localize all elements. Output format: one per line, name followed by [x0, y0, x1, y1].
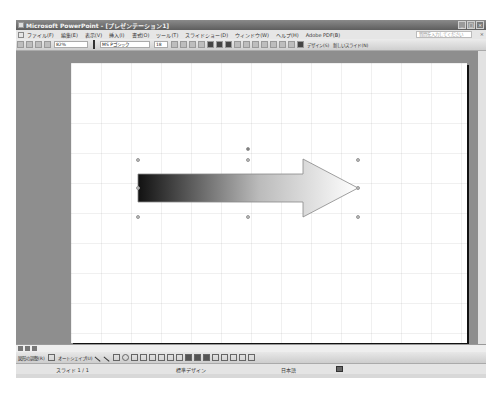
increase-font-icon[interactable]: [261, 41, 268, 48]
menu-help[interactable]: ヘルプ(H): [276, 31, 299, 38]
select-objects-icon[interactable]: [48, 354, 55, 361]
title-bar: Microsoft PowerPoint - [プレゼンテーション1] _ □ …: [16, 20, 486, 30]
close-button[interactable]: ×: [476, 21, 484, 29]
font-size-select[interactable]: 18: [154, 41, 168, 48]
powerpoint-window: Microsoft PowerPoint - [プレゼンテーション1] _ □ …: [16, 20, 486, 378]
maximize-button[interactable]: □: [467, 21, 475, 29]
numbering-icon[interactable]: [243, 41, 250, 48]
slide-sorter-icon[interactable]: [25, 346, 30, 351]
picture-icon[interactable]: [176, 354, 183, 361]
open-icon[interactable]: [26, 41, 33, 48]
shadow-icon[interactable]: [198, 41, 205, 48]
language: 日本語: [281, 366, 296, 373]
resize-handle-top-left[interactable]: [136, 158, 140, 162]
font-color-draw-icon[interactable]: [203, 354, 210, 361]
menu-adobe-pdf[interactable]: Adobe PDF(B): [306, 32, 340, 38]
menu-insert[interactable]: 挿入(I): [109, 31, 124, 38]
decrease-font-icon[interactable]: [270, 41, 277, 48]
textbox-icon[interactable]: [131, 354, 138, 361]
standard-formatting-toolbar: 82% MS Pゴシック 18 デザイン(S) 新しいスライド(N): [16, 39, 486, 51]
rectangle-icon[interactable]: [113, 354, 120, 361]
resize-handle-left[interactable]: [136, 186, 140, 190]
new-slide-button[interactable]: 新しいスライド(N): [333, 42, 368, 48]
arrow-style-icon[interactable]: [230, 354, 237, 361]
drawing-toolbar: 図形の調整(R) オートシェイプ(U): [16, 352, 486, 364]
menu-format[interactable]: 書式(O): [132, 31, 150, 38]
arrow-tool-icon[interactable]: [104, 354, 112, 362]
spellcheck-icon[interactable]: [336, 366, 343, 372]
slideshow-icon[interactable]: [32, 346, 37, 351]
line-style-icon[interactable]: [212, 354, 219, 361]
resize-handle-right[interactable]: [356, 186, 360, 190]
distribute-icon[interactable]: [234, 41, 241, 48]
align-center-icon[interactable]: [216, 41, 223, 48]
autoshapes-button[interactable]: オートシェイプ(U): [58, 355, 93, 361]
resize-handle-bottom[interactable]: [246, 215, 250, 219]
resize-handle-top-right[interactable]: [356, 158, 360, 162]
decrease-indent-icon[interactable]: [279, 41, 286, 48]
menu-window[interactable]: ウィンドウ(W): [235, 31, 269, 38]
slide-position: スライド 1 / 1: [56, 366, 89, 373]
oval-icon[interactable]: [122, 354, 129, 361]
vertical-textbox-icon[interactable]: [140, 354, 147, 361]
status-bar: スライド 1 / 1 標準デザイン 日本語: [16, 364, 486, 374]
minimize-button[interactable]: _: [458, 21, 466, 29]
print-icon[interactable]: [44, 41, 51, 48]
italic-icon[interactable]: [180, 41, 187, 48]
dash-style-icon[interactable]: [221, 354, 228, 361]
window-controls: _ □ ×: [458, 21, 484, 29]
3d-style-icon[interactable]: [248, 354, 255, 361]
design-name: 標準デザイン: [176, 366, 206, 373]
font-color-icon[interactable]: [297, 41, 304, 48]
align-left-icon[interactable]: [207, 41, 214, 48]
bullets-icon[interactable]: [252, 41, 259, 48]
menu-view[interactable]: 表示(V): [85, 31, 102, 38]
menu-tools[interactable]: ツール(T): [156, 31, 178, 38]
font-name-select[interactable]: MS Pゴシック: [100, 41, 150, 48]
vertical-scrollbar[interactable]: [478, 51, 486, 344]
menu-file[interactable]: ファイル(F): [27, 31, 54, 38]
powerpoint-app-icon: [18, 22, 24, 28]
menu-bar: ファイル(F) 編集(E) 表示(V) 挿入(I) 書式(O) ツール(T) ス…: [16, 30, 486, 39]
window-title: Microsoft PowerPoint - [プレゼンテーション1]: [26, 21, 169, 30]
fill-color-icon[interactable]: [185, 354, 192, 361]
view-buttons-bar: [16, 344, 486, 352]
document-icon[interactable]: [18, 32, 24, 38]
save-icon[interactable]: [35, 41, 42, 48]
slide-canvas[interactable]: [71, 63, 467, 343]
arrow-shape[interactable]: [71, 63, 467, 343]
menu-slideshow[interactable]: スライドショー(D): [185, 31, 228, 38]
menu-edit[interactable]: 編集(E): [61, 31, 78, 38]
help-search-input[interactable]: 質問を入力してください: [416, 31, 472, 38]
wordart-icon[interactable]: [149, 354, 156, 361]
align-right-icon[interactable]: [225, 41, 232, 48]
resize-handle-bottom-left[interactable]: [136, 215, 140, 219]
line-icon[interactable]: [95, 354, 103, 362]
new-icon[interactable]: [17, 41, 24, 48]
resize-handle-top[interactable]: [246, 158, 250, 162]
line-color-icon[interactable]: [194, 354, 201, 361]
clipart-icon[interactable]: [167, 354, 174, 361]
design-button[interactable]: デザイン(S): [307, 42, 329, 48]
rotate-handle[interactable]: [246, 147, 250, 151]
slide-workspace: [16, 51, 486, 344]
toolbar-separator: [93, 40, 95, 49]
resize-handle-bottom-right[interactable]: [356, 215, 360, 219]
shadow-style-icon[interactable]: [239, 354, 246, 361]
draw-menu-button[interactable]: 図形の調整(R): [18, 355, 45, 361]
increase-indent-icon[interactable]: [288, 41, 295, 48]
document-close-button[interactable]: ×: [480, 31, 484, 37]
underline-icon[interactable]: [189, 41, 196, 48]
zoom-select[interactable]: 82%: [54, 41, 88, 48]
normal-view-icon[interactable]: [18, 346, 23, 351]
bold-icon[interactable]: [171, 41, 178, 48]
diagram-icon[interactable]: [158, 354, 165, 361]
